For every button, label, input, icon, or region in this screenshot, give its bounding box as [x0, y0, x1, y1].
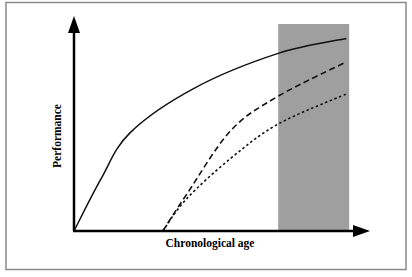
- x-axis-label: Chronological age: [166, 237, 255, 250]
- shaded-region: [278, 24, 349, 231]
- age-performance-diagram: Chronological age Performance: [0, 0, 412, 277]
- y-axis-label: Performance: [51, 104, 63, 168]
